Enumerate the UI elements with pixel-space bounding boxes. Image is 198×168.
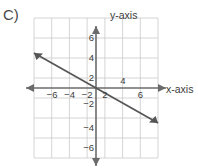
y-tick-label--2: −2	[78, 99, 94, 109]
graph-figure: C)	[0, 0, 198, 168]
y-tick-label-2: 2	[82, 73, 94, 83]
y-tick-label-6: 6	[82, 33, 94, 43]
x-tick-label--6: −6	[44, 90, 60, 100]
y-tick-label--4: −4	[78, 123, 94, 133]
x-tick-label-4: 4	[117, 76, 129, 86]
y-tick-label--6: −6	[78, 143, 94, 153]
y-tick-label-4: 4	[82, 53, 94, 63]
coordinate-plane: y-axis x-axis −6 −4 −2 2 4 6 6 4 2 −2 −4…	[0, 0, 198, 168]
x-tick-label-6: 6	[135, 90, 147, 100]
x-axis-label: x-axis	[166, 84, 193, 95]
y-axis-label: y-axis	[110, 10, 137, 21]
x-tick-label--4: −4	[62, 90, 78, 100]
x-tick-label-2: 2	[99, 90, 111, 100]
